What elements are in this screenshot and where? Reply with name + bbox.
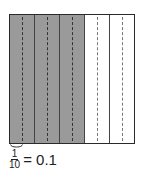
dashed-divider: [97, 17, 98, 141]
grid-column-shaded: [35, 15, 60, 143]
grid-column-unshaded: [110, 15, 134, 143]
grid-column-shaded: [10, 15, 35, 143]
decimal-equivalent: = 0.1: [23, 151, 57, 168]
tenths-grid: [9, 14, 135, 144]
dashed-divider: [22, 17, 23, 141]
tenth-label: 1 10 = 0.1: [9, 149, 57, 170]
dashed-divider: [47, 17, 48, 141]
dashed-divider: [122, 17, 123, 141]
grid-column-unshaded: [85, 15, 110, 143]
fraction: 1 10: [9, 149, 20, 170]
grid-column-shaded: [60, 15, 85, 143]
fraction-denominator: 10: [9, 160, 20, 170]
dashed-divider: [72, 17, 73, 141]
